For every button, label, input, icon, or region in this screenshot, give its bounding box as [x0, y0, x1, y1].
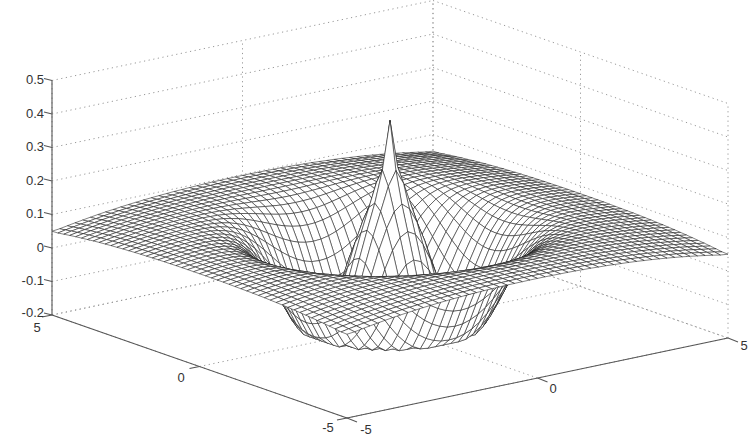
z-tick-label: -0.2 [22, 305, 44, 320]
z-tick-label: 0.3 [26, 139, 44, 154]
surface-plot: 0.5 0.4 0.3 0.2 0.1 0 -0.1 -0.2 5 0 -5 -… [0, 0, 755, 448]
z-tick-label: 0.2 [26, 173, 44, 188]
z-tick-label: -0.1 [22, 273, 44, 288]
x-tick-label: -5 [360, 422, 372, 437]
z-tick-label: 0.1 [26, 206, 44, 221]
z-tick-label: 0.5 [26, 72, 44, 87]
y-tick-label: -5 [322, 420, 334, 435]
z-tick-label: 0.4 [26, 106, 44, 121]
y-tick-label: 0 [177, 370, 184, 385]
surface-mesh [52, 120, 728, 350]
x-tick-label: 0 [549, 381, 556, 396]
z-tick-label: 0 [37, 240, 44, 255]
y-tick-label: 5 [33, 320, 40, 335]
x-tick-label: 5 [740, 338, 747, 353]
